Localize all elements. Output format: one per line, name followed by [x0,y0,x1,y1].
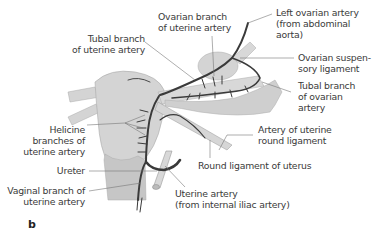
label-line: of uterine artery [158,22,231,33]
label-vaginal-branch: Vaginal branch ofuterine artery [7,185,85,207]
label-helicine-branches: Helicinebranches ofuterine artery [23,124,85,158]
label-line: Ureter [57,165,85,176]
label-ovarian-suspensory-ligament: Ovarian suspen-sory ligament [298,52,371,74]
label-line: sory ligament [298,63,371,74]
panel-letter: b [28,218,36,231]
label-line: Ovarian suspen- [298,52,371,63]
label-uterine-artery: Uterine artery(from internal iliac arter… [175,188,290,210]
label-line: Tubal branch [72,33,145,44]
label-left-ovarian-artery: Left ovarian artery(from abdominalaorta) [276,7,359,41]
label-line: Ovarian branch [158,11,231,22]
label-line: uterine artery [23,146,85,157]
label-line: of ovarian [298,91,355,102]
label-line: (from internal iliac artery) [175,199,290,210]
label-line: Helicine [23,124,85,135]
label-line: aorta) [276,29,359,40]
label-line: Left ovarian artery [276,7,359,18]
label-tubal-branch-uterine: Tubal branchof uterine artery [72,33,145,55]
label-line: artery [298,102,355,113]
label-line: (from abdominal [276,18,359,29]
label-line: round ligament [258,135,332,146]
label-line: Artery of uterine [258,124,332,135]
label-line: Uterine artery [175,188,290,199]
label-line: of uterine artery [72,44,145,55]
label-ovarian-branch: Ovarian branchof uterine artery [158,11,231,33]
uterus-body [95,71,164,166]
label-line: Tubal branch [298,80,355,91]
label-artery-round-ligament: Artery of uterineround ligament [258,124,332,146]
label-tubal-branch-ovarian: Tubal branchof ovarianartery [298,80,355,114]
label-line: branches of [23,135,85,146]
label-round-ligament: Round ligament of uterus [198,160,311,171]
label-line: Round ligament of uterus [198,160,311,171]
label-line: Vaginal branch of [7,185,85,196]
label-line: uterine artery [7,196,85,207]
left-ligament [68,104,100,125]
label-ureter: Ureter [57,165,85,176]
